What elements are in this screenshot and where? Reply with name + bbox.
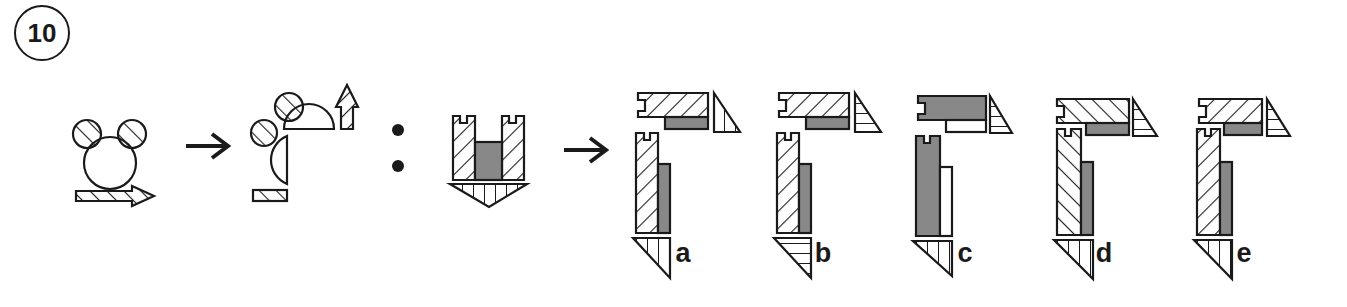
option-d-label[interactable]: d xyxy=(1089,238,1119,269)
option-a-label[interactable]: a xyxy=(668,238,698,269)
right-arrow-icon xyxy=(564,138,606,162)
option-e-label[interactable]: e xyxy=(1229,238,1259,269)
figure-3-castle xyxy=(450,116,527,207)
option-b-label[interactable]: b xyxy=(808,238,838,269)
colon-separator xyxy=(392,124,404,172)
option-c-label[interactable]: c xyxy=(950,238,980,269)
figure-2-split-mouse xyxy=(251,85,358,201)
figure-1-mouse xyxy=(73,120,154,206)
right-arrow-icon xyxy=(186,134,228,158)
